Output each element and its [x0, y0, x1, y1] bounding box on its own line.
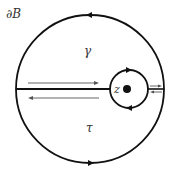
outer-top-arrow-icon	[86, 12, 92, 18]
right-upper-arrowhead-icon	[158, 85, 162, 88]
lower-slit-arrowhead-icon	[28, 96, 33, 100]
upper-slit-arrowhead-icon	[94, 81, 99, 85]
tau-label: τ	[86, 121, 93, 135]
point-z-dot	[123, 85, 131, 93]
inner-top-arrow-icon	[126, 67, 132, 73]
outer-bottom-arrow-icon	[88, 160, 94, 166]
boundary-label: ∂B	[6, 7, 21, 21]
right-lower-arrowhead-icon	[150, 91, 154, 94]
gamma-label: γ	[84, 44, 92, 58]
point-z-label: z	[113, 83, 120, 96]
inner-bottom-arrow-icon	[126, 105, 132, 111]
contour-diagram: z ∂B γ τ	[0, 0, 176, 176]
